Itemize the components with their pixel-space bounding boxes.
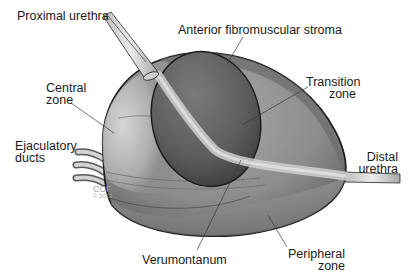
label-central-zone-line2: zone bbox=[46, 94, 86, 106]
proximal-urethra-shape bbox=[103, 12, 160, 82]
label-proximal-urethra-text: Proximal urethra bbox=[17, 10, 109, 22]
label-verumontanum-text: Verumontanum bbox=[142, 254, 227, 266]
label-ejaculatory-ducts-line2: ducts bbox=[15, 152, 77, 164]
label-anterior-fibromuscular-stroma-text: Anterior fibromuscular stroma bbox=[178, 24, 342, 36]
label-anterior-fibromuscular-stroma: Anterior fibromuscular stroma bbox=[178, 24, 342, 36]
label-peripheral-zone-line2: zone bbox=[285, 260, 345, 272]
label-transition-zone-line2: zone bbox=[306, 88, 356, 100]
label-distal-urethra-line2: urethra bbox=[356, 163, 398, 175]
copyright-mark: CCF © 2013 bbox=[93, 186, 112, 200]
label-proximal-urethra: Proximal urethra bbox=[17, 10, 109, 22]
label-central-zone: Central zone bbox=[46, 82, 86, 106]
leader-proximal-urethra bbox=[108, 16, 146, 62]
copyright-line2: © 2013 bbox=[93, 193, 112, 200]
label-transition-zone: Transition zone bbox=[306, 76, 356, 100]
ejaculatory-ducts-shape bbox=[76, 152, 106, 183]
label-peripheral-zone: Peripheral zone bbox=[285, 248, 345, 272]
label-distal-urethra: Distal urethra bbox=[356, 151, 398, 175]
copyright-line1: CCF bbox=[93, 186, 112, 193]
label-verumontanum: Verumontanum bbox=[142, 254, 227, 266]
label-ejaculatory-ducts: Ejaculatory ducts bbox=[15, 140, 77, 164]
